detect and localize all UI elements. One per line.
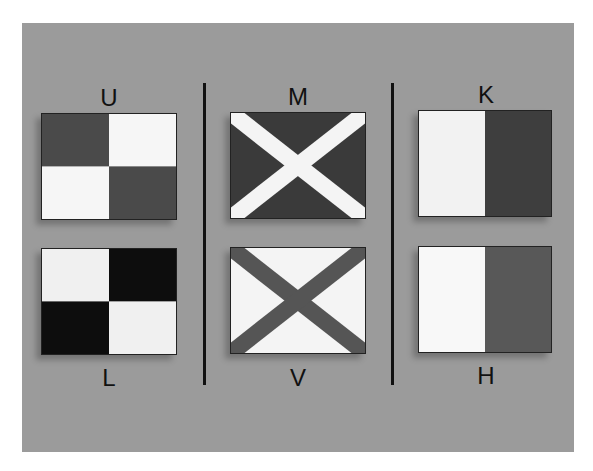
flag-h-halves-graphic	[419, 247, 551, 352]
flag-l-quartered-graphic	[42, 249, 176, 354]
flag-label-k: K	[418, 83, 554, 107]
flag-k	[418, 110, 552, 217]
flag-label-v: V	[230, 366, 366, 390]
flag-m	[230, 112, 366, 219]
flag-v-saltire-graphic	[231, 248, 365, 353]
flag-l	[41, 248, 177, 355]
column-divider-left	[203, 83, 206, 385]
flag-u-quartered-graphic	[42, 114, 176, 219]
flag-v	[230, 247, 366, 354]
flag-label-m: M	[230, 85, 366, 109]
flag-u	[41, 113, 177, 220]
column-divider-right	[391, 83, 394, 385]
flag-label-u: U	[41, 86, 177, 110]
flag-m-saltire-graphic	[231, 113, 365, 218]
flag-label-h: H	[418, 364, 554, 388]
flag-h	[418, 246, 552, 353]
flag-label-l: L	[41, 366, 177, 390]
flag-k-halves-graphic	[419, 111, 551, 216]
